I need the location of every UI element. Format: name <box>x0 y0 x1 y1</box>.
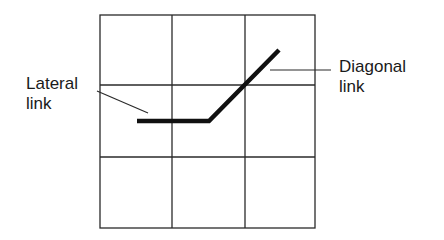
diagonal-label-line2: link <box>339 77 406 97</box>
diagonal-label-line1: Diagonal <box>339 57 406 77</box>
lateral-label-line1: Lateral <box>26 74 78 94</box>
leader-lines <box>97 70 331 113</box>
lateral-label-line2: link <box>26 94 78 114</box>
lateral-link-label: Lateral link <box>26 74 78 114</box>
diagonal-link-label: Diagonal link <box>339 57 406 97</box>
grid-diagram <box>0 0 444 240</box>
lateral-leader-line <box>97 91 148 113</box>
